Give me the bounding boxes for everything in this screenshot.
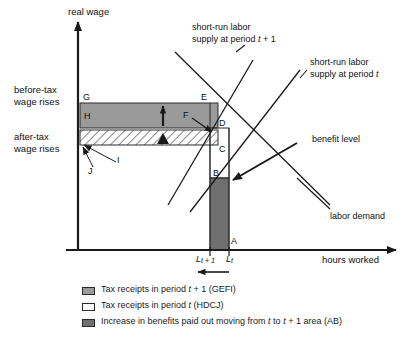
point-label-i: I <box>117 155 120 166</box>
after-tax-wage-rises-label-line2: wage rises <box>14 143 59 154</box>
point-label-d: D <box>219 118 226 129</box>
legend-label-hdcj: Tax receipts in period t (HDCJ) <box>101 300 224 310</box>
tick-label-l-t-plus-1-sub: t + 1 <box>201 257 215 264</box>
supply-t-plus-1-label-line2: supply at period t + 1 <box>192 34 276 45</box>
point-label-g: G <box>83 92 90 103</box>
point-label-f: F <box>183 110 189 121</box>
x-axis-label: hours worked <box>322 254 379 265</box>
region-ab-benefit-increase <box>210 178 229 250</box>
leader-line-supply-t <box>300 70 307 78</box>
point-label-b: B <box>213 168 219 179</box>
region-gefi-tax-receipts-t-plus-1 <box>80 103 218 128</box>
legend-item-gefi: Tax receipts in period t + 1 (GEFI) <box>82 284 402 300</box>
leader-line-supply-t-plus-1 <box>236 45 245 52</box>
benefit-level-label: benefit level <box>312 134 360 145</box>
legend-label-ab: Increase in benefits paid out moving fro… <box>101 316 342 326</box>
legend-swatch-ab <box>82 319 95 327</box>
before-tax-wage-rises-label-line1: before-tax <box>14 84 57 95</box>
before-tax-wage-rises-label-line2: wage rises <box>14 96 59 107</box>
supply-t-plus-1-label-line1: short-run labor <box>192 22 251 33</box>
leader-line-labor-demand <box>297 178 330 209</box>
tick-label-l-t-plus-1: Lt + 1 <box>196 254 215 265</box>
point-label-j: J <box>88 166 93 177</box>
after-tax-wage-rises-label-line1: after-tax <box>14 131 49 142</box>
legend-item-hdcj: Tax receipts in period t (HDCJ) <box>82 300 402 316</box>
supply-t-label-line1: short-run labor <box>310 57 369 68</box>
legend: Tax receipts in period t + 1 (GEFI) Tax … <box>82 284 402 332</box>
legend-label-gefi: Tax receipts in period t + 1 (GEFI) <box>101 284 236 294</box>
tick-label-l-t-sub: t <box>231 257 233 264</box>
labor-demand-label: labor demand <box>330 211 385 222</box>
region-hdcj-tax-receipts-t <box>80 130 218 145</box>
point-label-h: H <box>84 111 91 122</box>
legend-swatch-gefi <box>82 287 95 295</box>
y-axis-label: real wage <box>68 6 109 17</box>
legend-item-ab: Increase in benefits paid out moving fro… <box>82 316 402 332</box>
legend-swatch-hdcj <box>82 303 95 311</box>
tick-label-l-t: Lt <box>226 254 233 265</box>
point-label-e: E <box>201 92 207 103</box>
point-label-a: A <box>231 236 237 247</box>
leader-line-j <box>83 147 93 167</box>
point-label-c: C <box>219 144 226 155</box>
supply-t-label-line2: supply at period t <box>310 69 379 80</box>
leader-line-benefit-level <box>233 143 297 180</box>
